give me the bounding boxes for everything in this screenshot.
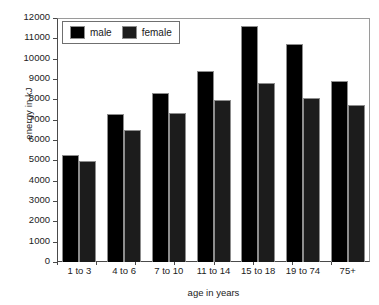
x-axis-category-label: 15 to 18: [236, 265, 281, 276]
y-axis-title: energy in kJ: [23, 34, 34, 194]
x-axis-category-label: 4 to 6: [102, 265, 147, 276]
bar-male-75+: [331, 81, 348, 262]
legend-swatch-female: [122, 26, 137, 39]
bar-female-4-to-6: [124, 130, 141, 262]
bar-group: [325, 18, 370, 262]
legend-swatch-male: [70, 26, 85, 39]
x-axis-category-label: 11 to 14: [191, 265, 236, 276]
bar-group: [191, 18, 236, 262]
bar-male-11-to-14: [197, 71, 214, 262]
bar-female-1-to-3: [79, 161, 96, 262]
y-axis-tick-label: 3000: [29, 194, 50, 205]
x-axis-title: age in years: [57, 287, 370, 298]
x-axis-category-label: 1 to 3: [57, 265, 102, 276]
x-axis-category-label: 75+: [325, 265, 370, 276]
legend-label-female: female: [142, 27, 172, 38]
x-axis-category-label: 19 to 74: [281, 265, 326, 276]
bar-male-7-to-10: [152, 93, 169, 262]
bar-group: [57, 18, 102, 262]
bar-female-19-to-74: [303, 98, 320, 262]
bar-male-19-to-74: [286, 44, 303, 262]
legend-label-male: male: [90, 27, 112, 38]
bar-group: [102, 18, 147, 262]
bar-male-1-to-3: [62, 155, 79, 262]
bar-female-7-to-10: [169, 113, 186, 262]
bars-layer: [57, 18, 370, 262]
bar-female-75+: [348, 105, 365, 262]
bar-group: [281, 18, 326, 262]
legend-entry-male: male: [70, 26, 112, 39]
bar-male-15-to-18: [241, 26, 258, 262]
bar-male-4-to-6: [107, 114, 124, 262]
y-axis-tick-label: 0: [45, 255, 50, 266]
bar-group: [146, 18, 191, 262]
bar-group: [236, 18, 281, 262]
bar-chart: energy in kJ 010002000300040005000600070…: [0, 0, 379, 305]
x-axis-category-labels: 1 to 34 to 67 to 1011 to 1415 to 1819 to…: [57, 265, 370, 276]
legend-entry-female: female: [122, 26, 172, 39]
chart-legend: malefemale: [62, 21, 180, 44]
x-axis-category-label: 7 to 10: [146, 265, 191, 276]
y-axis-tick-label: 12000: [24, 11, 50, 22]
bar-female-11-to-14: [214, 100, 231, 262]
bar-female-15-to-18: [258, 83, 275, 262]
y-axis-tick-label: 1000: [29, 235, 50, 246]
y-axis-tick-label: 2000: [29, 214, 50, 225]
